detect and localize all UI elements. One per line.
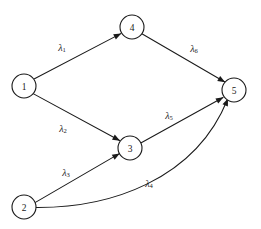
lambda-subscript: 6 [195,47,199,54]
node-5[interactable]: 5 [222,78,246,102]
edge-path [141,98,223,144]
edge-path [35,34,121,79]
edge-label-lambda-2: λ2 [58,123,67,134]
node-3[interactable]: 3 [118,136,142,160]
graph-diagram: λ1 λ2 λ3 λ4 λ5 λ6 1 [0,0,261,229]
node-2[interactable]: 2 [12,195,36,219]
node-4[interactable]: 4 [120,15,144,39]
edge-label-lambda-4: λ4 [144,178,153,189]
node-label: 4 [130,23,135,33]
node-label: 3 [128,144,133,154]
graph-canvas: λ1 λ2 λ3 λ4 λ5 λ6 1 [0,0,261,229]
edge-path [34,94,120,141]
edge-label-lambda-3: λ3 [61,167,70,178]
edge-1-to-4 [35,31,123,79]
lambda-subscript: 4 [150,182,154,189]
edge-label-lambda-6: λ6 [189,43,198,54]
node-label: 5 [232,86,237,96]
lambda-subscript: 2 [64,127,67,134]
edge-2-to-3 [35,151,121,203]
edge-3-to-5 [141,95,225,143]
edge-labels-layer: λ1 λ2 λ3 λ4 λ5 λ6 [57,42,198,189]
edge-1-to-3 [34,94,122,143]
edge-path [35,154,119,203]
lambda-subscript: 5 [170,114,174,121]
lambda-subscript: 3 [67,171,71,178]
lambda-subscript: 1 [63,46,66,53]
edges-layer [34,31,231,208]
edge-4-to-5 [142,34,226,85]
edge-path [142,34,225,82]
edge-label-lambda-5: λ5 [164,110,173,121]
node-1[interactable]: 1 [12,74,36,98]
nodes-layer: 1 2 3 4 5 [12,15,246,219]
node-label: 1 [22,82,27,92]
node-label: 2 [22,203,27,213]
edge-label-lambda-1: λ1 [57,42,66,53]
